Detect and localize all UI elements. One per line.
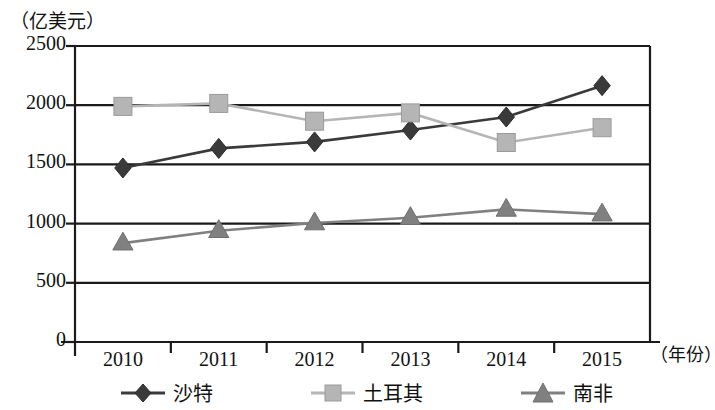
y-axis-unit-label: （亿美元） [10, 6, 105, 33]
y-tick-label: 1500 [4, 150, 66, 173]
diamond-marker [120, 380, 166, 406]
data-point-triangle [400, 207, 420, 225]
triangle-marker [520, 380, 566, 406]
legend-label: 南非 [573, 378, 613, 407]
y-tick-label: 0 [4, 328, 66, 351]
x-tick-label: 2013 [370, 348, 450, 371]
data-point-diamond [211, 138, 227, 158]
series-line-沙特 [123, 86, 602, 168]
data-point-triangle [496, 198, 516, 216]
legend-diamond-icon [135, 384, 151, 402]
y-tick-marks-group [66, 46, 75, 342]
line-chart: （亿美元） 25002000150010005000 2010201120122… [0, 0, 715, 410]
legend-item-南非[interactable]: 南非 [520, 378, 613, 407]
data-point-square [497, 133, 515, 151]
y-tick-label: 1000 [4, 210, 66, 233]
axes-group [61, 46, 660, 356]
data-point-diamond [115, 158, 131, 178]
data-point-square [114, 97, 132, 115]
data-point-diamond [306, 132, 322, 152]
legend-square-icon [325, 385, 341, 401]
data-point-triangle [592, 203, 612, 221]
x-tick-label: 2012 [275, 348, 355, 371]
y-tick-label: 2000 [4, 91, 66, 114]
data-point-square [306, 112, 324, 130]
y-tick-label: 500 [4, 269, 66, 292]
x-tick-label: 2011 [179, 348, 259, 371]
gridlines-group [75, 46, 650, 283]
data-point-square [401, 104, 419, 122]
data-point-diamond [402, 120, 418, 140]
x-tick-label: 2014 [466, 348, 546, 371]
x-tick-label: 2010 [83, 348, 163, 371]
series-line-南非 [123, 209, 602, 243]
legend-item-土耳其[interactable]: 土耳其 [310, 378, 423, 407]
data-point-diamond [594, 76, 610, 96]
data-point-triangle [304, 212, 324, 230]
x-tick-label: 2015 [562, 348, 642, 371]
legend-item-沙特[interactable]: 沙特 [120, 378, 213, 407]
square-marker [310, 380, 356, 406]
data-point-diamond [498, 107, 514, 127]
data-point-square [593, 119, 611, 137]
y-tick-label: 2500 [4, 32, 66, 55]
legend-label: 沙特 [173, 378, 213, 407]
chart-legend: 沙特土耳其南非 [0, 378, 715, 408]
data-point-triangle [209, 220, 229, 238]
legend-label: 土耳其 [363, 378, 423, 407]
data-point-square [210, 94, 228, 112]
x-axis-unit-label: （年份） [650, 340, 715, 366]
